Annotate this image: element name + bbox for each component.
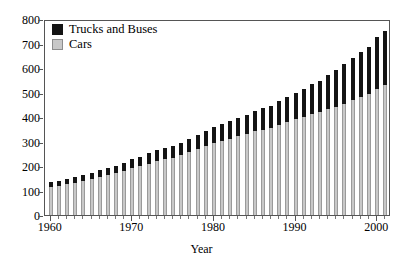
- bar-1975: [171, 146, 175, 215]
- bar-segment-cars: [367, 94, 371, 215]
- bar-1970: [130, 159, 134, 215]
- bar-segment-trucks-and-buses: [122, 163, 126, 171]
- bar-1981: [220, 124, 224, 215]
- x-tick-minor-1973: [156, 216, 157, 219]
- bar-segment-cars: [310, 114, 314, 215]
- x-tick-minor-1976: [180, 216, 181, 219]
- bar-segment-trucks-and-buses: [155, 150, 159, 161]
- bar-1977: [187, 139, 191, 215]
- bar-segment-trucks-and-buses: [228, 121, 232, 138]
- y-tick-mark-100: [38, 192, 43, 193]
- bar-segment-cars: [122, 171, 126, 215]
- x-tick-label-1980: 1980: [187, 221, 239, 234]
- bar-2000: [375, 37, 379, 215]
- bar-segment-cars: [351, 100, 355, 215]
- bar-segment-cars: [220, 141, 224, 215]
- bar-segment-trucks-and-buses: [220, 124, 224, 140]
- bar-segment-cars: [81, 181, 85, 215]
- bar-segment-cars: [269, 128, 273, 215]
- bar-segment-cars: [359, 97, 363, 215]
- bar-segment-cars: [383, 85, 387, 215]
- bar-1966: [98, 170, 102, 215]
- bar-segment-trucks-and-buses: [65, 179, 69, 184]
- x-tick-minor-1962: [66, 216, 67, 219]
- bar-1974: [163, 148, 167, 215]
- y-tick-label-200: 200: [2, 161, 40, 173]
- x-tick-minor-1968: [115, 216, 116, 219]
- bar-segment-cars: [73, 183, 77, 215]
- x-tick-minor-1998: [360, 216, 361, 219]
- bar-segment-trucks-and-buses: [310, 84, 314, 114]
- bar-segment-cars: [187, 152, 191, 215]
- bar-segment-trucks-and-buses: [261, 108, 265, 130]
- bar-1978: [196, 135, 200, 215]
- bar-segment-trucks-and-buses: [57, 181, 61, 186]
- bar-segment-cars: [57, 186, 61, 215]
- bar-1982: [228, 121, 232, 215]
- legend-label-cars: Cars: [69, 38, 92, 51]
- bar-1989: [285, 97, 289, 215]
- y-tick-mark-300: [38, 143, 43, 144]
- x-tick-label-1990: 1990: [269, 221, 321, 234]
- x-tick-minor-1977: [188, 216, 189, 219]
- bar-segment-trucks-and-buses: [383, 31, 387, 85]
- x-tick-minor-1991: [303, 216, 304, 219]
- x-tick-minor-1986: [262, 216, 263, 219]
- bar-segment-cars: [138, 166, 142, 215]
- bar-segment-trucks-and-buses: [302, 89, 306, 117]
- bar-1987: [269, 106, 273, 216]
- bar-1962: [65, 179, 69, 215]
- bar-segment-trucks-and-buses: [269, 106, 273, 129]
- x-tick-minor-1992: [311, 216, 312, 219]
- bar-segment-trucks-and-buses: [106, 168, 110, 175]
- x-tick-minor-1996: [343, 216, 344, 219]
- bar-segment-trucks-and-buses: [253, 111, 257, 131]
- bar-1979: [204, 131, 208, 215]
- bar-1994: [326, 75, 330, 215]
- x-tick-minor-1985: [254, 216, 255, 219]
- bar-segment-cars: [342, 104, 346, 215]
- bar-segment-cars: [147, 164, 151, 215]
- bar-segment-cars: [171, 158, 175, 215]
- y-tick-mark-0: [38, 216, 43, 217]
- x-tick-label-1960: 1960: [24, 221, 76, 234]
- y-tick-label-700: 700: [2, 39, 40, 51]
- x-tick-minor-1975: [172, 216, 173, 219]
- legend-swatch-icon-trucks: [52, 24, 63, 35]
- bar-segment-trucks-and-buses: [147, 153, 151, 163]
- y-tick-label-100: 100: [2, 186, 40, 198]
- x-tick-minor-1997: [352, 216, 353, 219]
- bar-segment-cars: [277, 125, 281, 215]
- bar-segment-trucks-and-buses: [375, 37, 379, 88]
- bar-segment-trucks-and-buses: [49, 182, 53, 186]
- bar-segment-trucks-and-buses: [326, 75, 330, 109]
- bar-segment-trucks-and-buses: [138, 157, 142, 166]
- x-tick-minor-1982: [229, 216, 230, 219]
- x-tick-label-2000: 2000: [350, 221, 402, 234]
- bar-segment-cars: [294, 119, 298, 215]
- x-tick-minor-2001: [384, 216, 385, 219]
- bar-1980: [212, 127, 216, 215]
- y-tick-mark-800: [38, 20, 43, 21]
- bar-1997: [351, 58, 355, 215]
- bar-segment-cars: [334, 107, 338, 215]
- bar-segment-trucks-and-buses: [187, 139, 191, 152]
- x-tick-minor-1974: [164, 216, 165, 219]
- bar-1964: [81, 175, 85, 215]
- bar-segment-trucks-and-buses: [245, 115, 249, 134]
- bar-segment-cars: [236, 136, 240, 215]
- bar-segment-cars: [212, 143, 216, 215]
- y-tick-mark-700: [38, 45, 43, 46]
- bar-segment-trucks-and-buses: [204, 131, 208, 146]
- legend-item-trucks-and-buses: Trucks and Buses: [52, 22, 157, 36]
- bar-1999: [367, 47, 371, 215]
- bar-segment-trucks-and-buses: [236, 118, 240, 136]
- bar-1995: [334, 70, 338, 215]
- bar-1971: [138, 157, 142, 215]
- x-tick-minor-1999: [368, 216, 369, 219]
- bar-segment-cars: [163, 159, 167, 215]
- bar-segment-cars: [49, 187, 53, 215]
- bar-segment-trucks-and-buses: [277, 101, 281, 125]
- bar-1993: [318, 81, 322, 215]
- bar-1984: [245, 115, 249, 215]
